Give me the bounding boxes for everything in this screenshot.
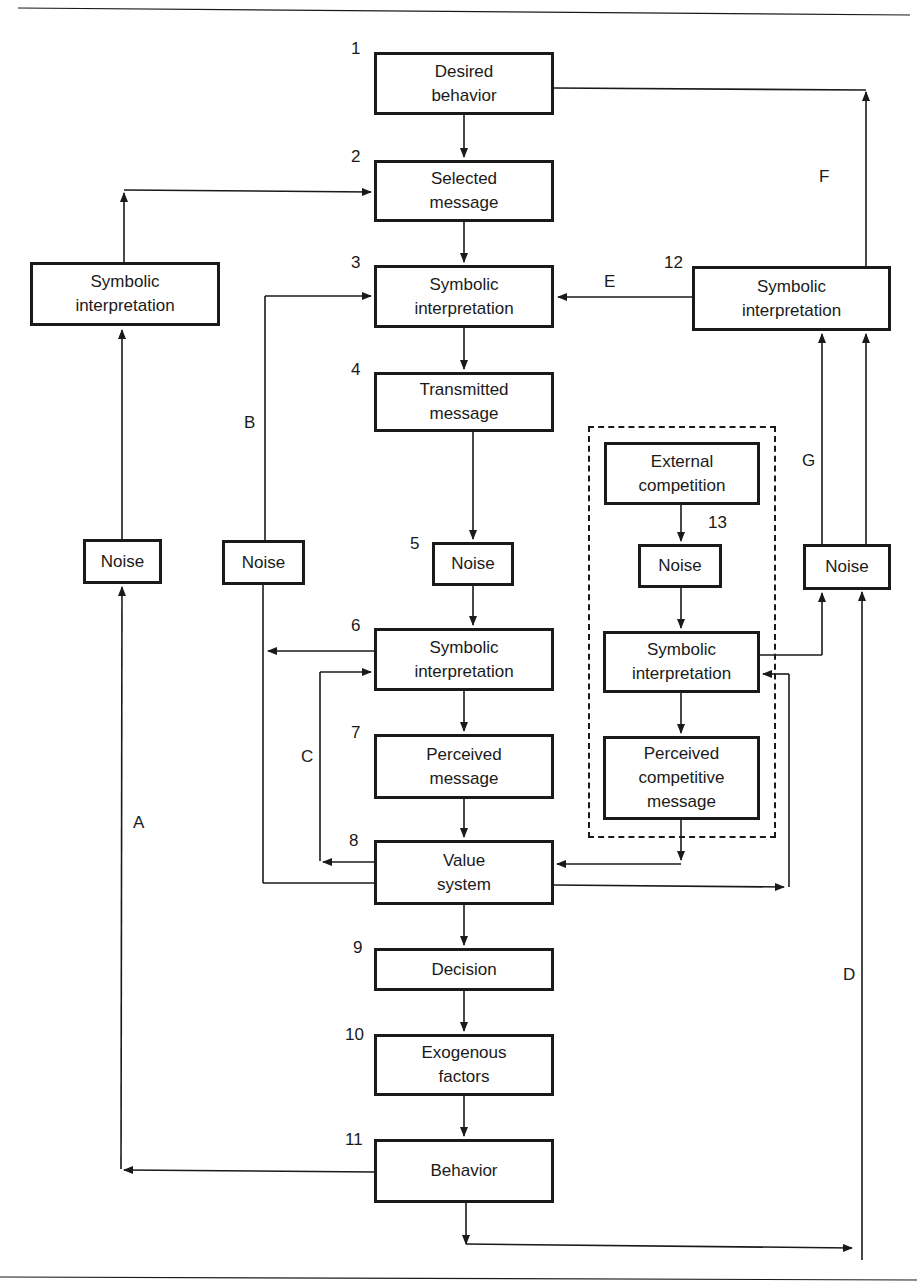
step-number-3: 3 (351, 254, 360, 272)
step-number-8: 8 (349, 832, 358, 850)
path-label-e: E (604, 273, 615, 291)
node-label: Perceived message (426, 743, 502, 791)
step-number-4: 4 (351, 361, 360, 379)
node-label: Symbolic interpretation (75, 270, 174, 318)
node-left-symbolic-interpretation: Symbolic interpretation (30, 262, 220, 326)
path-label-d: D (843, 966, 855, 984)
step-number-10: 10 (345, 1026, 364, 1044)
path-label-b: B (244, 414, 255, 432)
step-number-12: 12 (664, 254, 683, 272)
node-perceived-competitive-message: Perceived competitive message (603, 736, 760, 820)
node-label: Noise (242, 551, 285, 575)
node-exogenous-factors: Exogenous factors (374, 1034, 554, 1096)
node-noise-g: Noise (803, 544, 891, 590)
node-competitive-symbolic-interpretation: Symbolic interpretation (603, 631, 760, 693)
node-label: Desired behavior (431, 60, 496, 108)
node-symbolic-interpretation-3: Symbolic interpretation (374, 265, 554, 328)
node-label: Noise (658, 554, 701, 578)
step-number-1: 1 (351, 40, 360, 58)
node-symbolic-interpretation-6: Symbolic interpretation (374, 628, 554, 691)
node-label: Transmitted message (419, 378, 508, 426)
node-label: Noise (451, 552, 494, 576)
step-number-6: 6 (351, 617, 360, 635)
node-noise-b: Noise (222, 540, 305, 585)
node-label: Behavior (430, 1159, 497, 1183)
node-label: Perceived competitive message (639, 742, 725, 814)
node-label: Symbolic interpretation (414, 636, 513, 684)
node-transmitted-message: Transmitted message (374, 372, 554, 432)
path-label-g: G (802, 452, 815, 470)
node-perceived-message: Perceived message (374, 734, 554, 799)
node-label: External competition (639, 450, 726, 498)
node-noise-13: Noise (638, 544, 722, 588)
node-label: Symbolic interpretation (414, 273, 513, 321)
node-external-competition: External competition (604, 442, 760, 505)
step-number-2: 2 (351, 148, 360, 166)
node-decision: Decision (374, 948, 554, 991)
step-number-5: 5 (410, 535, 419, 553)
node-desired-behavior: Desired behavior (374, 52, 554, 115)
node-label: Exogenous factors (421, 1041, 506, 1089)
node-label: Noise (825, 555, 868, 579)
node-value-system: Value system (374, 840, 554, 905)
node-noise-a: Noise (83, 539, 162, 584)
node-behavior: Behavior (374, 1139, 554, 1203)
step-number-11: 11 (345, 1131, 363, 1149)
node-label: Value system (437, 849, 491, 897)
node-symbolic-interpretation-12: Symbolic interpretation (692, 266, 891, 331)
node-label: Symbolic interpretation (742, 275, 841, 323)
step-number-13: 13 (708, 514, 727, 532)
step-number-9: 9 (353, 939, 362, 957)
node-label: Noise (101, 550, 144, 574)
node-label: Selected message (430, 167, 499, 215)
node-selected-message: Selected message (374, 160, 554, 222)
path-label-a: A (133, 814, 144, 832)
path-label-c: C (301, 748, 313, 766)
node-noise-5: Noise (432, 542, 514, 586)
path-label-f: F (819, 168, 829, 186)
node-label: Decision (431, 958, 496, 982)
node-label: Symbolic interpretation (632, 638, 731, 686)
step-number-7: 7 (351, 724, 360, 742)
